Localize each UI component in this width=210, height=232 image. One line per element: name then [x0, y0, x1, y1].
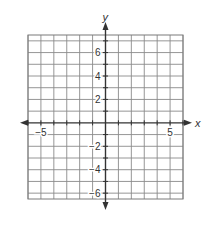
y-tick-label: 6 — [95, 47, 101, 58]
y-axis-label: y — [102, 11, 110, 23]
x-tick-label: −5 — [35, 127, 47, 138]
y-tick-label: −2 — [89, 141, 101, 152]
x-axis-left-arrow-icon — [20, 120, 28, 126]
y-tick-label: −4 — [89, 164, 101, 175]
x-tick-label: 5 — [167, 127, 173, 138]
y-tick-label: 4 — [95, 71, 101, 82]
coordinate-plane: −55642−2−4−6 x y — [0, 0, 210, 232]
y-tick-label: −6 — [89, 188, 101, 199]
x-axis-label: x — [194, 117, 201, 129]
y-axis-up-arrow-icon — [103, 22, 109, 30]
y-axis-down-arrow-icon — [103, 202, 109, 210]
y-tick-label: 2 — [95, 94, 101, 105]
x-axis-right-arrow-icon — [184, 120, 192, 126]
